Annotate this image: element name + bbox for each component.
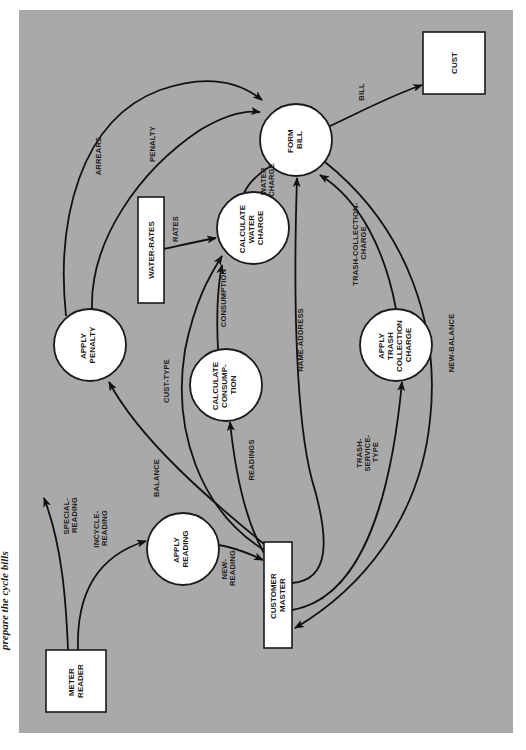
label-balance: BALANCE: [152, 459, 161, 497]
label-readings: READINGS: [247, 439, 256, 480]
label-penalty: PENALTY: [148, 126, 157, 162]
svg-text:WATER-RATES: WATER-RATES: [147, 221, 156, 279]
label-cust-type: CUST-TYPE: [162, 359, 171, 403]
label-bill: BILL: [357, 83, 366, 101]
label-name-address: NAME-ADDRESS: [296, 308, 305, 372]
node-water-rates: WATER-RATES: [138, 197, 164, 303]
node-apply-penalty: APPLY PENALTY: [54, 309, 126, 381]
label-special-reading: SPECIAL- READING: [62, 496, 79, 535]
label-consumption: CONSUMPTION: [219, 269, 228, 327]
node-customer-master: CUSTOMER MASTER: [264, 542, 292, 648]
svg-text:APPLY READING: APPLY READING: [172, 531, 190, 568]
svg-text:CUSTOMER MASTER: CUSTOMER MASTER: [269, 571, 287, 619]
node-calculate-consumption: CALCULATE CONSUMP- TION: [190, 349, 262, 421]
svg-text:APPLY PENALTY: APPLY PENALTY: [79, 326, 97, 363]
label-incycle-reading: INCYCLE- READING: [92, 508, 109, 547]
label-water-charge: WATER CHARGE: [259, 163, 276, 197]
node-cust: CUST: [423, 32, 485, 94]
node-apply-trash-collection-charge: APPLY TRASH COLLECTION CHARGE: [360, 309, 432, 381]
svg-text:METER READER: METER READER: [67, 664, 85, 698]
node-calculate-water-charge: CALCULATE WATER CHARGE: [217, 192, 289, 264]
label-new-balance: NEW-BALANCE: [447, 314, 456, 373]
node-meter-reader: METER READER: [46, 650, 106, 712]
data-flow-diagram: prepare the cycle bills METER READER: [0, 0, 526, 750]
caption-fragment: prepare the cycle bills: [0, 551, 10, 651]
label-rates: RATES: [171, 216, 180, 242]
svg-text:CUST: CUST: [450, 52, 459, 74]
label-arrears: ARREARS: [94, 137, 103, 176]
node-apply-reading: APPLY READING: [147, 513, 219, 585]
